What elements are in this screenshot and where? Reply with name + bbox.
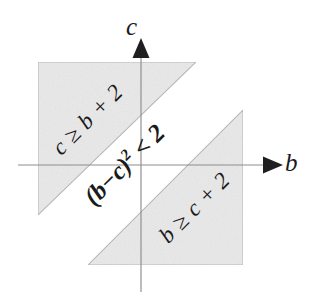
axis-label-c: c bbox=[126, 14, 137, 39]
arrow-up-icon bbox=[133, 38, 150, 58]
figure-canvas: c b c ≥ b + 2 b ≥ c + 2 (b−c)2 < 2 bbox=[0, 0, 312, 301]
axis-label-b: b bbox=[285, 150, 298, 175]
arrow-right-icon bbox=[263, 157, 283, 174]
